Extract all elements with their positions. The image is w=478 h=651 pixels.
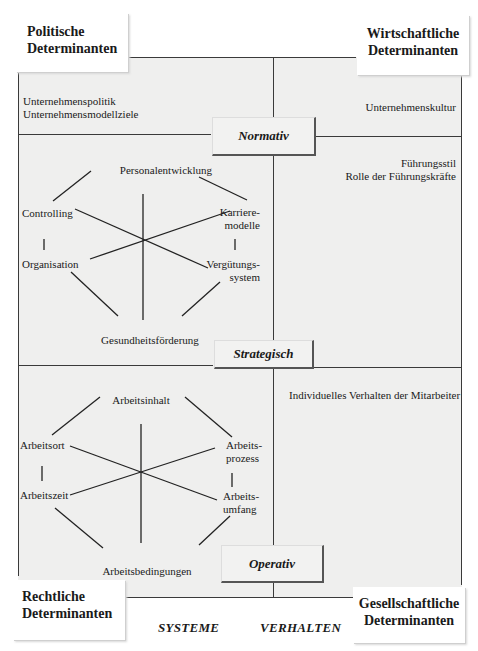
node-label: Arbeits- — [226, 439, 262, 452]
node-arbeitszeit: Arbeitszeit — [20, 489, 68, 502]
node-label: system — [200, 271, 260, 284]
node-label: Organisation — [22, 258, 79, 270]
node-label: prozess — [226, 452, 262, 465]
node-arbeitsinhalt: Arbeitsinhalt — [100, 394, 182, 407]
node-controlling: Controlling — [22, 207, 73, 220]
node-label: Personalentwicklung — [120, 164, 212, 176]
node-label: Arbeitsort — [20, 439, 65, 451]
node-label: Arbeitsinhalt — [112, 394, 169, 406]
node-label: Karriere- — [212, 206, 260, 219]
node-label: modelle — [212, 219, 260, 232]
axis-label-verhalten: VERHALTEN — [260, 620, 341, 636]
node-karrieremodelle: Karriere- modelle — [212, 206, 260, 232]
node-organisation: Organisation — [22, 258, 79, 271]
node-arbeitsort: Arbeitsort — [20, 439, 65, 452]
node-label: Arbeits- — [223, 490, 259, 503]
axis-label-systeme: SYSTEME — [158, 620, 219, 636]
node-gesundheitsfoerderung: Gesundheitsförderung — [90, 334, 210, 347]
node-personalentwicklung: Personalentwicklung — [106, 164, 226, 177]
node-label: Controlling — [22, 207, 73, 219]
axis-text: VERHALTEN — [260, 620, 341, 635]
node-label: umfang — [223, 503, 259, 516]
node-label: Gesundheitsförderung — [101, 334, 199, 346]
node-label: Arbeitszeit — [20, 489, 68, 501]
node-arbeitsbedingungen: Arbeitsbedingungen — [90, 565, 204, 578]
node-arbeitsprozess: Arbeits- prozess — [226, 439, 262, 465]
node-label: Vergütungs- — [200, 258, 260, 271]
node-arbeitsumfang: Arbeits- umfang — [223, 490, 259, 516]
node-verguetungssystem: Vergütungs- system — [200, 258, 260, 284]
axis-text: SYSTEME — [158, 620, 219, 635]
strategisch-network-lines — [0, 0, 478, 651]
node-label: Arbeitsbedingungen — [102, 565, 191, 577]
